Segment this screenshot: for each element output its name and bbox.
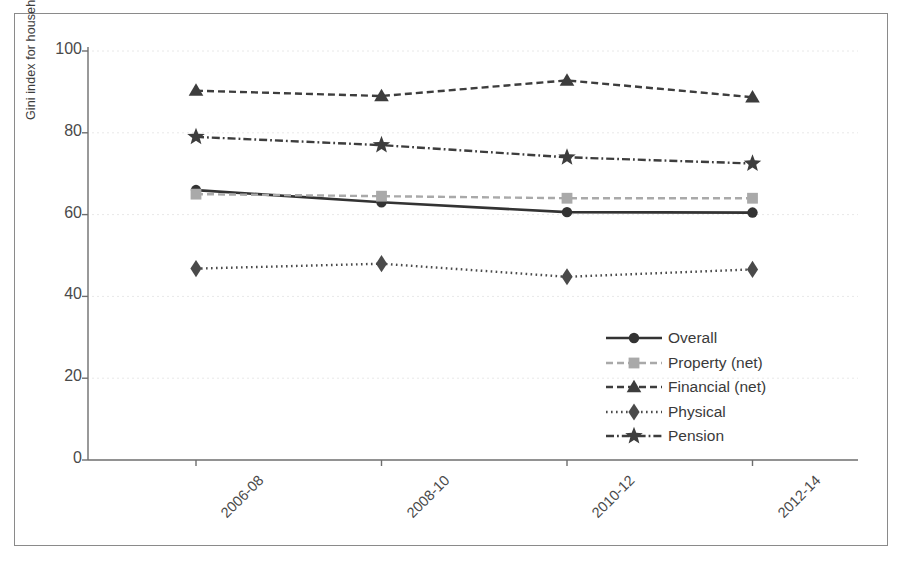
line-chart-plot (0, 0, 903, 561)
legend-marker-icon (604, 352, 664, 374)
legend-label: Property (net) (668, 354, 763, 372)
data-point (744, 154, 762, 171)
series-property-net (191, 189, 758, 204)
data-point (560, 73, 575, 86)
legend-item: Physical (604, 400, 819, 425)
data-point (187, 128, 205, 145)
series-financial-net (189, 73, 760, 102)
data-point (189, 83, 204, 96)
legend-marker-icon (604, 401, 664, 423)
series-overall (191, 185, 758, 218)
legend-item: Financial (net) (604, 375, 819, 400)
legend-item: Pension (604, 424, 819, 449)
data-point (191, 189, 202, 200)
legend-marker-icon (604, 376, 664, 398)
data-point (373, 136, 391, 153)
legend-item: Property (net) (604, 351, 819, 376)
data-point (558, 148, 576, 165)
data-point (747, 261, 758, 278)
data-point (376, 191, 387, 202)
series-pension (187, 128, 761, 171)
legend-label: Pension (668, 427, 724, 445)
data-point (376, 255, 387, 272)
data-point (190, 260, 201, 277)
data-point (747, 207, 757, 217)
legend-label: Financial (net) (668, 378, 766, 396)
data-point (562, 207, 572, 217)
legend-marker-icon (604, 425, 664, 447)
data-point (562, 193, 573, 204)
legend-item: Overall (604, 326, 819, 351)
legend-marker-icon (604, 327, 664, 349)
data-point (747, 193, 758, 204)
series-physical (190, 255, 758, 285)
data-point (561, 268, 572, 285)
chart-legend: OverallProperty (net)Financial (net)Phys… (604, 326, 819, 449)
legend-label: Overall (668, 329, 717, 347)
legend-label: Physical (668, 403, 726, 421)
